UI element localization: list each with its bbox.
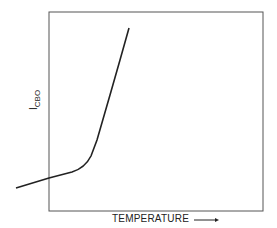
y-axis-label-sub: CBO	[33, 90, 42, 107]
y-axis-label: ICBO	[28, 90, 42, 110]
chart-canvas	[0, 0, 277, 228]
x-axis-label: TEMPERATURE	[112, 213, 189, 224]
x-arrow-icon	[194, 218, 219, 222]
plot-frame	[49, 12, 263, 211]
y-axis-label-main: I	[28, 107, 39, 110]
